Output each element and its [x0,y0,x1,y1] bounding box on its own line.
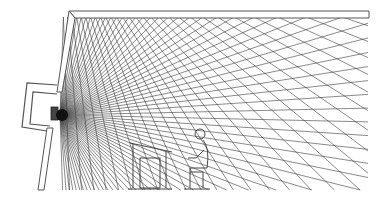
acoustic-ray-diagram [0,0,383,201]
sound-ray [60,115,130,190]
sound-ray [60,108,368,115]
ceiling-wall [69,11,369,18]
diagram-canvas [0,0,383,201]
source-point [56,109,68,121]
sound-ray [60,94,368,115]
sound-ray [60,67,368,115]
sound-ray [60,81,368,115]
sound-rays [60,17,368,190]
sound-ray [60,115,108,190]
sound-ray [60,115,368,163]
